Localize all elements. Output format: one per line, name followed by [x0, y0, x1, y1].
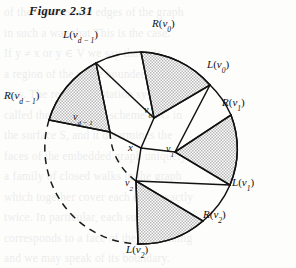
boundary-label-L-v1: L(v1) [232, 176, 254, 188]
spoke-x-to-v0 [141, 118, 154, 148]
figure-page: of the vertices and edges of the graphin… [0, 0, 296, 268]
spoke-x-to-vd1 [110, 132, 141, 148]
vertex-label-v1: v1 [166, 143, 174, 154]
boundary-label-R-v1: R(v1) [222, 96, 245, 108]
boundary-label-R-v0: R(v0) [152, 17, 175, 29]
boundary-label-R-v2: R(v2) [203, 208, 226, 220]
spoke-x-to-v2 [136, 148, 141, 181]
boundary-label-L-v0: L(v0) [207, 58, 229, 70]
cut-v2-to-Lv1 [136, 181, 230, 185]
vertex-label-v0: v0 [144, 104, 152, 115]
circle-sector-diagram [0, 0, 296, 268]
boundary-label-L-v2: L(v2) [126, 243, 148, 255]
vertex-label-vd-1: vd − 1 [73, 111, 93, 122]
shaded-sector-v1 [175, 115, 237, 185]
boundary-label-R-vd-1: R(vd − 1) [4, 89, 39, 101]
boundary-label-L-vd-1: L(vd − 1) [63, 28, 98, 40]
shaded-sector-v2 [136, 181, 203, 244]
vertex-label-v2: v2 [125, 177, 133, 188]
center-label-x: x [128, 141, 133, 153]
